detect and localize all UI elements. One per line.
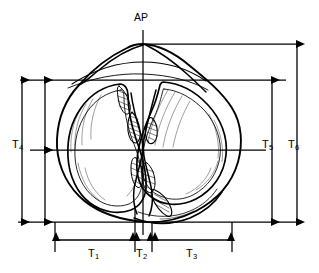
t4-base: T (12, 138, 19, 150)
anatomy-drawing (57, 44, 241, 223)
t1-subscript: 1 (95, 252, 99, 261)
t2-base: T (136, 247, 143, 259)
t4-subscript: 4 (19, 143, 23, 152)
medial-plateau-shading (71, 95, 137, 200)
measurement-label-t2: T2 (136, 248, 147, 259)
tibial-plateau-figure: AP T4 T5 T6 T1 T2 T3 (0, 0, 319, 273)
measurement-label-t1: T1 (88, 248, 99, 259)
medial-plateau-inner-rim (75, 90, 142, 206)
anterior-tubercle-shelf (68, 74, 208, 90)
diagram-canvas (0, 0, 319, 273)
measurement-label-t3: T3 (186, 248, 197, 259)
ap-axis-label: AP (134, 12, 148, 23)
measurement-label-t4: T4 (12, 139, 23, 150)
t2-subscript: 2 (143, 252, 147, 261)
t5-subscript: 5 (269, 143, 273, 152)
vertical-reference-lines (55, 30, 232, 252)
t3-subscript: 3 (193, 252, 197, 261)
t1-base: T (88, 247, 95, 259)
t6-base: T (288, 138, 295, 150)
t5-base: T (262, 138, 269, 150)
measurement-label-t5: T5 (262, 139, 273, 150)
anterior-apex-left-edge (79, 45, 143, 85)
measurement-label-t6: T6 (288, 139, 299, 150)
intercondylar-eminence-outline-right (143, 90, 156, 216)
t6-subscript: 6 (295, 143, 299, 152)
t3-base: T (186, 247, 193, 259)
